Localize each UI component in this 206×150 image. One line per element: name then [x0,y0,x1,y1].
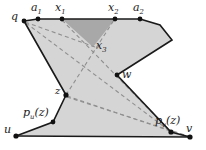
vertex-u [13,133,18,138]
label-pu-paren: (z) [34,106,48,119]
vertex-w [115,73,120,78]
label-a1-sub: 1 [38,8,42,16]
label-a1: a1 [31,2,42,16]
label-v: v [186,123,192,134]
label-z: z [55,86,60,96]
label-u: u [4,124,11,135]
label-x3: x3 [96,40,107,54]
label-a2: a2 [133,2,144,16]
vertex-pv [168,129,173,134]
vertex-x1 [60,17,65,22]
label-x3-sub: 3 [102,46,106,54]
vertex-q [22,19,27,24]
label-x1: x1 [55,2,66,16]
label-pu-text: p [23,106,30,119]
label-x2: x2 [108,2,119,16]
vertex-z [63,92,68,97]
vertex-x2 [113,17,118,22]
vertex-pu [51,120,56,125]
edge-bottom [16,136,190,137]
label-x2-sub: 2 [114,8,118,16]
label-pu: pu(z) [23,107,49,121]
label-a2-sub: 2 [140,8,144,16]
label-q: q [11,11,18,22]
figure-canvas: q a1 x1 x2 a2 x3 w z pu(z) u pv(z) v [0,0,206,150]
label-pv: pv(z) [155,115,180,129]
label-pv-paren: (z) [166,114,180,127]
vertex-a1 [36,17,41,22]
vertex-v [187,134,192,139]
label-x1-sub: 1 [61,8,65,16]
label-pv-text: p [155,114,162,127]
vertex-a2 [138,17,143,22]
label-w: w [122,69,131,80]
